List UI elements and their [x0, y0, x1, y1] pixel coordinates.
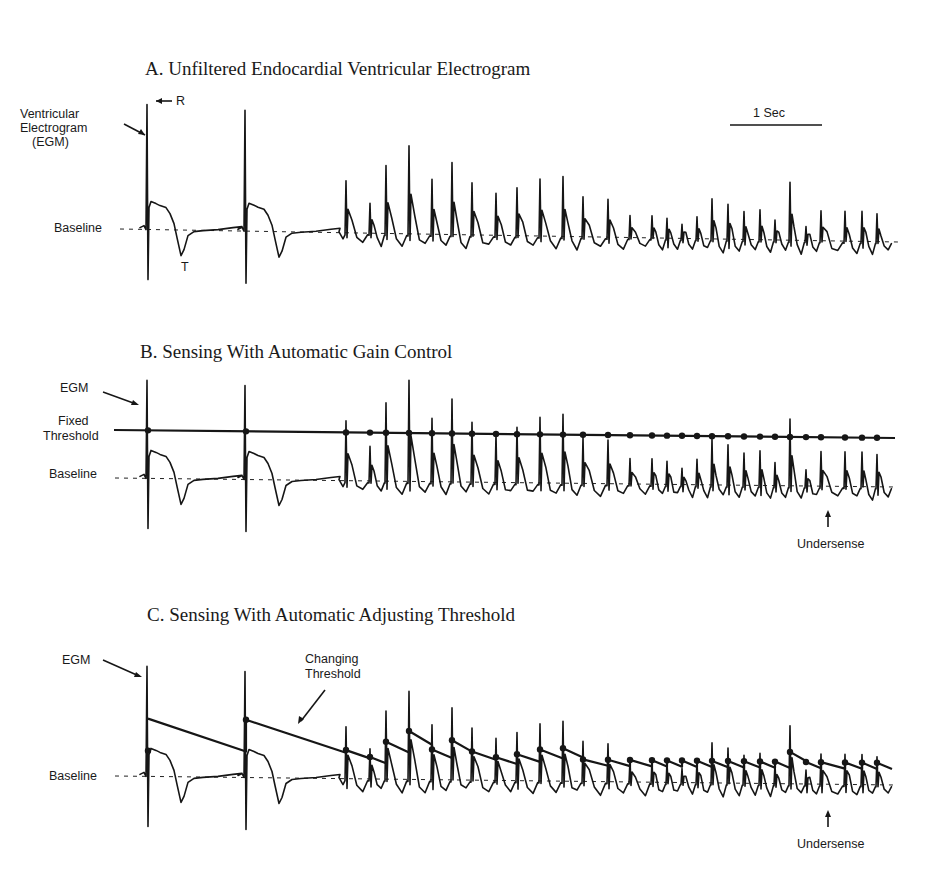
- sense-marker: [493, 431, 499, 437]
- panel-a-egm-label-line2: Electrogram: [20, 121, 87, 135]
- sense-marker: [145, 747, 151, 753]
- sense-marker: [664, 432, 670, 438]
- r-arrowhead-icon: [156, 98, 162, 104]
- panel-b-threshold-label-line2: Threshold: [43, 429, 99, 443]
- panel-b: B. Sensing With Automatic Gain Control E…: [43, 341, 895, 551]
- sense-marker: [580, 432, 586, 438]
- sense-marker: [537, 746, 543, 752]
- sense-marker: [605, 432, 611, 438]
- sense-marker: [874, 435, 880, 441]
- sense-marker: [664, 757, 670, 763]
- sense-marker: [649, 757, 655, 763]
- sense-marker: [367, 754, 373, 760]
- sense-marker: [243, 717, 249, 723]
- sense-marker: [560, 745, 566, 751]
- panel-c-egm-label: EGM: [62, 653, 90, 667]
- t-wave-label: T: [181, 260, 189, 274]
- sense-marker: [449, 737, 455, 743]
- panel-c-title: C. Sensing With Automatic Adjusting Thre…: [147, 604, 515, 625]
- panel-a: A. Unfiltered Endocardial Ventricular El…: [20, 58, 898, 283]
- sense-marker: [694, 433, 700, 439]
- sense-marker: [874, 760, 880, 766]
- sense-marker: [741, 758, 747, 764]
- sense-marker: [449, 430, 455, 436]
- panel-b-egm-arrow: [103, 392, 136, 404]
- sense-marker: [859, 759, 865, 765]
- sense-marker: [493, 754, 499, 760]
- panel-c-arrowhead-icon: [134, 672, 142, 677]
- sense-marker: [383, 739, 389, 745]
- panel-a-egm-trace: [140, 105, 891, 284]
- sense-marker: [514, 751, 520, 757]
- sense-marker: [469, 430, 475, 436]
- panel-c: C. Sensing With Automatic Adjusting Thre…: [49, 604, 895, 851]
- panel-b-title: B. Sensing With Automatic Gain Control: [140, 341, 452, 362]
- sense-marker: [605, 756, 611, 762]
- panel-b-baseline-label: Baseline: [49, 467, 97, 481]
- panel-c-baseline-label: Baseline: [49, 769, 97, 783]
- sense-marker: [818, 759, 824, 765]
- panel-b-threshold-label-line1: Fixed: [58, 414, 89, 428]
- sense-marker: [627, 757, 633, 763]
- panel-c-sense-markers: [145, 717, 880, 766]
- sense-marker: [383, 430, 389, 436]
- sense-marker: [429, 430, 435, 436]
- panel-b-egm-trace: [140, 380, 891, 531]
- panel-c-egm-trace: [140, 666, 891, 829]
- sense-marker: [243, 428, 249, 434]
- panel-b-egm-label: EGM: [60, 381, 88, 395]
- sense-marker: [709, 758, 715, 764]
- panel-b-undersense-arrowhead-icon: [825, 510, 831, 517]
- sense-marker: [859, 434, 865, 440]
- sense-marker: [406, 728, 412, 734]
- sense-marker: [343, 429, 349, 435]
- panel-a-egm-label-line3: (EGM): [32, 135, 69, 149]
- sense-marker: [803, 759, 809, 765]
- sense-marker: [537, 431, 543, 437]
- panel-c-threshold-label-line2: Threshold: [305, 667, 361, 681]
- sense-marker: [787, 749, 793, 755]
- sense-marker: [842, 759, 848, 765]
- panel-c-undersense-label: Undersense: [797, 837, 864, 851]
- sense-marker: [627, 432, 633, 438]
- panel-a-baseline-label: Baseline: [54, 221, 102, 235]
- r-wave-label: R: [176, 94, 185, 108]
- sense-marker: [343, 747, 349, 753]
- panel-b-arrowhead-icon: [131, 400, 139, 405]
- panel-b-undersense-label: Undersense: [797, 537, 864, 551]
- sense-marker: [469, 748, 475, 754]
- sense-marker: [772, 434, 778, 440]
- sense-marker: [772, 758, 778, 764]
- sense-marker: [842, 434, 848, 440]
- sense-marker: [560, 431, 566, 437]
- panel-c-undersense-arrowhead-icon: [825, 810, 831, 817]
- sense-marker: [725, 758, 731, 764]
- sense-marker: [514, 431, 520, 437]
- sense-marker: [406, 430, 412, 436]
- sense-marker: [757, 433, 763, 439]
- panel-c-egm-arrow: [103, 660, 139, 676]
- sense-marker: [145, 427, 151, 433]
- sense-marker: [679, 757, 685, 763]
- sense-marker: [649, 432, 655, 438]
- sense-marker: [429, 746, 435, 752]
- sense-marker: [787, 434, 793, 440]
- scale-bar-label: 1 Sec: [753, 106, 785, 120]
- sense-marker: [709, 433, 715, 439]
- sense-marker: [757, 758, 763, 764]
- panel-a-title: A. Unfiltered Endocardial Ventricular El…: [145, 58, 531, 79]
- sense-marker: [367, 429, 373, 435]
- changing-threshold-arrow: [301, 690, 325, 721]
- panel-a-egm-label-line1: Ventricular: [20, 107, 79, 121]
- sense-marker: [694, 758, 700, 764]
- sense-marker: [741, 433, 747, 439]
- electrogram-figure: A. Unfiltered Endocardial Ventricular El…: [0, 0, 940, 887]
- sense-marker: [818, 434, 824, 440]
- sense-marker: [580, 756, 586, 762]
- sense-marker: [679, 433, 685, 439]
- panel-c-threshold-label-line1: Changing: [305, 652, 359, 666]
- sense-marker: [725, 433, 731, 439]
- sense-marker: [803, 434, 809, 440]
